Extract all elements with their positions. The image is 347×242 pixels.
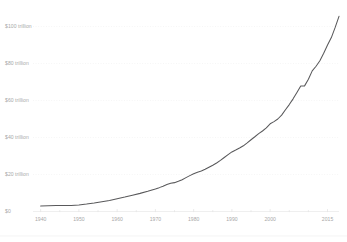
- y-tick-label-100: $100 trillion: [5, 23, 32, 29]
- gridlines: [33, 27, 339, 175]
- y-tick-label-20: $20 trillion: [5, 171, 29, 177]
- y-tick-label-0: $0: [5, 208, 11, 214]
- x-tick-label-2015: 2015: [322, 216, 334, 222]
- y-axis-tick-labels: $0$20 trillion$40 trillion$60 trillion$8…: [5, 23, 32, 214]
- x-tick-label-2000: 2000: [264, 216, 276, 222]
- y-tick-label-60: $60 trillion: [5, 97, 29, 103]
- y-tick-label-80: $80 trillion: [5, 60, 29, 66]
- x-tick-label-1990: 1990: [226, 216, 238, 222]
- x-tick-label-1960: 1960: [111, 216, 123, 222]
- chart-container: $0$20 trillion$40 trillion$60 trillion$8…: [0, 0, 347, 242]
- line-chart: $0$20 trillion$40 trillion$60 trillion$8…: [0, 0, 347, 242]
- y-tick-label-40: $40 trillion: [5, 134, 29, 140]
- x-tick-label-1950: 1950: [73, 216, 85, 222]
- x-tick-label-1980: 1980: [188, 216, 200, 222]
- x-tick-label-1970: 1970: [150, 216, 162, 222]
- data-line-gross-world-product: [41, 16, 339, 206]
- x-tick-label-1940: 1940: [35, 216, 47, 222]
- x-axis-tick-labels: 19401950196019701980199020002015: [35, 216, 334, 222]
